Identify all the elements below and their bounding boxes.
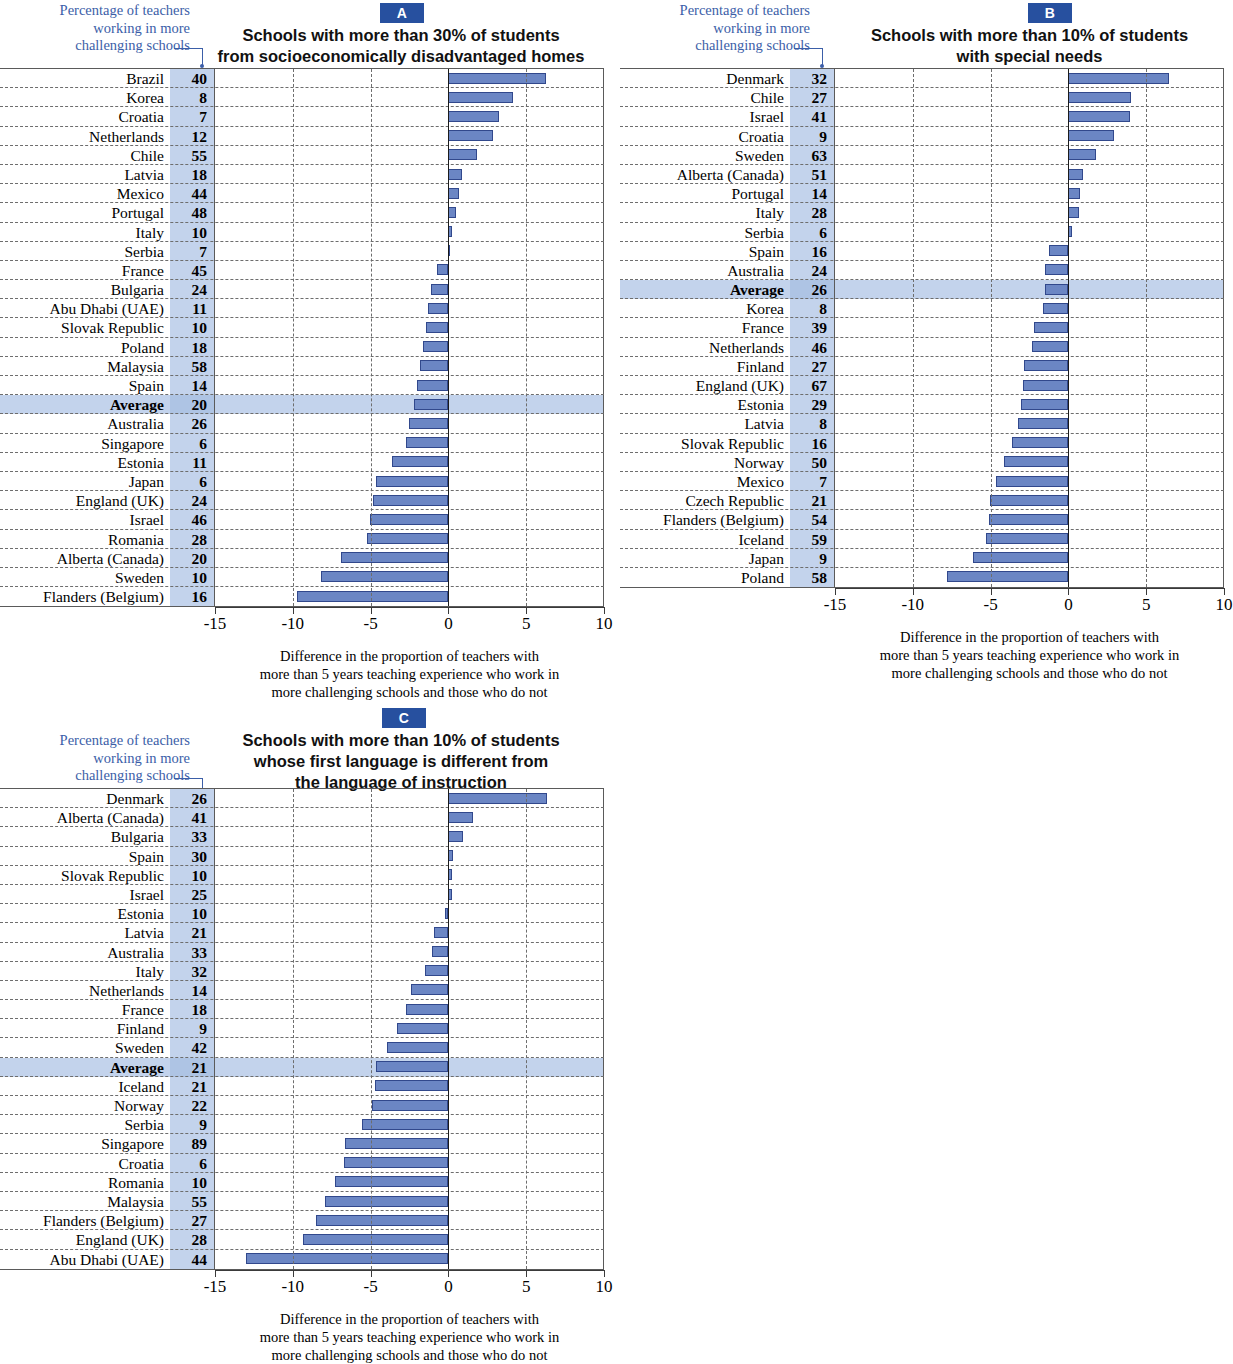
bar-cell: [215, 472, 604, 491]
bar-cell: [835, 184, 1224, 203]
percentage-value: 44: [170, 184, 215, 203]
bar-cell: [835, 414, 1224, 433]
bar: [431, 284, 448, 295]
bar: [1032, 341, 1068, 352]
bar-cell: [215, 789, 604, 808]
bar-cell: [835, 165, 1224, 184]
bar: [448, 831, 464, 842]
bar: [1034, 322, 1068, 333]
percentage-value: 28: [170, 530, 215, 549]
country-label: England (UK): [0, 491, 170, 510]
bar-cell: [215, 261, 604, 280]
percentage-value: 14: [170, 981, 215, 1000]
table-row: Sweden42: [0, 1038, 604, 1057]
bar-cell: [215, 568, 604, 587]
bar: [1068, 207, 1080, 218]
percentage-value: 67: [790, 376, 835, 395]
percentage-value: 44: [170, 1250, 215, 1269]
axis-tick-label: -10: [281, 614, 304, 634]
country-label: Singapore: [0, 434, 170, 453]
bar: [392, 456, 448, 467]
percentage-value: 39: [790, 318, 835, 337]
axis-tick: [215, 607, 216, 614]
bar: [448, 812, 473, 823]
country-label: Flanders (Belgium): [0, 587, 170, 606]
bar-cell: [835, 357, 1224, 376]
percentage-value: 10: [170, 866, 215, 885]
bar: [425, 965, 448, 976]
bar: [1004, 456, 1068, 467]
bar: [1068, 226, 1072, 237]
table-row: Japan6: [0, 472, 604, 491]
country-label: Chile: [620, 88, 790, 107]
country-label: Australia: [0, 943, 170, 962]
bar: [996, 476, 1067, 487]
bar-cell: [215, 1019, 604, 1038]
country-label: Brazil: [0, 69, 170, 88]
table-row: Average21: [0, 1058, 604, 1077]
table-row: Mexico44: [0, 184, 604, 203]
axis-c: -15-10-50510: [215, 1270, 604, 1286]
axis-caption-a: Difference in the proportion of teachers…: [215, 647, 604, 701]
bar: [448, 226, 452, 237]
bar-cell: [835, 376, 1224, 395]
table-row: Finland9: [0, 1019, 604, 1038]
bar-cell: [215, 1134, 604, 1153]
country-label: Abu Dhabi (UAE): [0, 1250, 170, 1269]
country-label: Latvia: [0, 165, 170, 184]
table-row: Romania10: [0, 1173, 604, 1192]
country-label: Italy: [0, 223, 170, 242]
bar: [448, 850, 453, 861]
percentage-value: 28: [790, 203, 835, 222]
axis-tick-label: 0: [444, 1277, 453, 1297]
bar-cell: [215, 1250, 604, 1269]
bar-cell: [835, 568, 1224, 587]
bar-cell: [835, 88, 1224, 107]
bar-cell: [215, 223, 604, 242]
country-label: Iceland: [0, 1077, 170, 1096]
bar-cell: [215, 127, 604, 146]
bar: [1068, 188, 1080, 199]
bar: [325, 1196, 448, 1207]
table-row: Portugal14: [620, 184, 1224, 203]
bar-cell: [835, 472, 1224, 491]
bar: [448, 889, 452, 900]
percentage-value: 28: [170, 1230, 215, 1249]
percentage-value: 26: [790, 280, 835, 299]
percentage-value: 26: [170, 414, 215, 433]
percentage-value: 16: [790, 434, 835, 453]
country-label: Serbia: [0, 1115, 170, 1134]
table-row: Israel46: [0, 510, 604, 529]
table-row: Slovak Republic10: [0, 866, 604, 885]
panel-title-a: Schools with more than 30% of studentsfr…: [198, 25, 604, 67]
bar: [303, 1234, 447, 1245]
bar-cell: [835, 146, 1224, 165]
axis-tick: [835, 588, 836, 595]
country-label: Mexico: [620, 472, 790, 491]
percentage-value: 26: [170, 789, 215, 808]
bar-cell: [215, 146, 604, 165]
percentage-value: 51: [790, 165, 835, 184]
percentage-value: 58: [790, 568, 835, 587]
percentage-value: 18: [170, 1000, 215, 1019]
table-row: Korea8: [620, 299, 1224, 318]
axis-tick: [913, 588, 914, 595]
bar: [387, 1042, 448, 1053]
chart-area-b: Denmark32Chile27Israel41Croatia9Sweden63…: [620, 68, 1224, 588]
bar: [1021, 399, 1068, 410]
country-label: Netherlands: [0, 127, 170, 146]
country-label: Netherlands: [0, 981, 170, 1000]
bar-cell: [215, 1077, 604, 1096]
country-label: Slovak Republic: [0, 318, 170, 337]
country-label: Malaysia: [0, 1192, 170, 1211]
bar: [316, 1215, 448, 1226]
bar-cell: [835, 107, 1224, 126]
bar: [448, 793, 547, 804]
table-row: Italy10: [0, 223, 604, 242]
country-label: Denmark: [620, 69, 790, 88]
bar: [376, 1061, 447, 1072]
bar-cell: [835, 299, 1224, 318]
bar: [1068, 73, 1169, 84]
country-label: Abu Dhabi (UAE): [0, 299, 170, 318]
table-row: Latvia18: [0, 165, 604, 184]
